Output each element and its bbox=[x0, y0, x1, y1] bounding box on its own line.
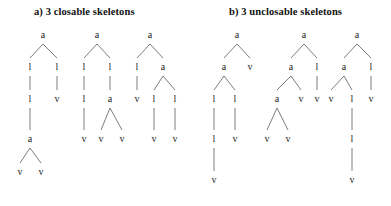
tree-node-b2-n0: a bbox=[298, 30, 310, 40]
tree-node-b3-n3: v bbox=[325, 94, 337, 104]
tree-node-b3-n0: a bbox=[351, 30, 363, 40]
tree-node-a2-n2: l bbox=[104, 62, 116, 72]
tree-node-a3-n7: v bbox=[169, 134, 181, 144]
tree-node-b3-n1: a bbox=[338, 62, 350, 72]
tree-node-b1-n4: l bbox=[229, 94, 241, 104]
tree-node-b1-n6: v bbox=[229, 134, 241, 144]
tree-node-a3-n4: l bbox=[148, 94, 160, 104]
tree-node-a3-n3: v bbox=[131, 94, 143, 104]
tree-edge bbox=[304, 44, 317, 58]
tree-node-a1-n6: v bbox=[14, 167, 26, 177]
tree-edge bbox=[97, 44, 110, 58]
tree-edge bbox=[224, 76, 235, 90]
tree-node-b3-n4: l bbox=[346, 94, 358, 104]
tree-node-a1-n7: v bbox=[35, 167, 47, 177]
tree-edge bbox=[84, 44, 97, 58]
tree-node-b1-n1: a bbox=[218, 62, 230, 72]
tree-node-a2-n0: a bbox=[91, 30, 103, 40]
tree-node-b2-n2: l bbox=[311, 62, 323, 72]
tree-edge bbox=[224, 44, 237, 58]
tree-edge bbox=[150, 44, 163, 58]
tree-edge bbox=[30, 44, 43, 58]
tree-edge bbox=[137, 44, 150, 58]
tree-edge bbox=[154, 76, 163, 90]
tree-node-a3-n6: v bbox=[148, 134, 160, 144]
tree-node-b2-n5: v bbox=[311, 94, 323, 104]
tree-edge bbox=[331, 76, 344, 90]
tree-node-a1-n0: a bbox=[37, 30, 49, 40]
tree-node-b1-n0: a bbox=[231, 30, 243, 40]
tree-edge bbox=[291, 76, 301, 90]
tree-node-a1-n5: a bbox=[24, 134, 36, 144]
tree-node-a1-n4: v bbox=[51, 94, 63, 104]
tree-edge bbox=[357, 44, 371, 58]
tree-node-a2-n1: l bbox=[78, 62, 90, 72]
skeletons-figure: a) 3 closable skeletons b) 3 unclosable … bbox=[0, 0, 391, 206]
tree-node-b1-n5: l bbox=[208, 134, 220, 144]
tree-node-b3-n5: v bbox=[365, 94, 377, 104]
tree-edge bbox=[267, 108, 277, 130]
tree-edge bbox=[237, 44, 250, 58]
tree-node-a3-n2: a bbox=[157, 62, 169, 72]
tree-node-a2-n4: a bbox=[104, 94, 116, 104]
tree-node-b2-n4: v bbox=[295, 94, 307, 104]
tree-edge bbox=[291, 44, 304, 58]
tree-node-a2-n3: l bbox=[78, 94, 90, 104]
tree-node-b2-n3: a bbox=[271, 94, 283, 104]
tree-edge bbox=[214, 76, 224, 90]
tree-edge bbox=[277, 108, 288, 130]
tree-edge bbox=[101, 108, 110, 130]
tree-node-a1-n1: l bbox=[24, 62, 36, 72]
tree-node-b1-n7: v bbox=[208, 175, 220, 185]
tree-edge bbox=[30, 148, 41, 163]
tree-node-a3-n5: l bbox=[169, 94, 181, 104]
tree-node-b1-n2: v bbox=[244, 62, 256, 72]
tree-node-b2-n7: v bbox=[282, 134, 294, 144]
tree-edge bbox=[344, 76, 352, 90]
tree-node-a2-n5: v bbox=[78, 134, 90, 144]
tree-edge bbox=[163, 76, 175, 90]
tree-edge bbox=[344, 44, 357, 58]
tree-edge bbox=[110, 108, 122, 130]
tree-node-b3-n2: l bbox=[365, 62, 377, 72]
tree-node-b3-n7: v bbox=[346, 175, 358, 185]
tree-edge bbox=[277, 76, 291, 90]
tree-node-a3-n0: a bbox=[144, 30, 156, 40]
tree-node-a2-n7: v bbox=[116, 134, 128, 144]
tree-node-a2-n6: v bbox=[95, 134, 107, 144]
tree-node-b3-n6: l bbox=[346, 134, 358, 144]
tree-node-b2-n1: a bbox=[285, 62, 297, 72]
tree-edge bbox=[43, 44, 57, 58]
tree-node-b2-n6: v bbox=[261, 134, 273, 144]
tree-node-a1-n2: l bbox=[51, 62, 63, 72]
tree-edge bbox=[20, 148, 30, 163]
tree-node-a1-n3: l bbox=[24, 94, 36, 104]
tree-node-a3-n1: l bbox=[131, 62, 143, 72]
tree-node-b1-n3: l bbox=[208, 94, 220, 104]
